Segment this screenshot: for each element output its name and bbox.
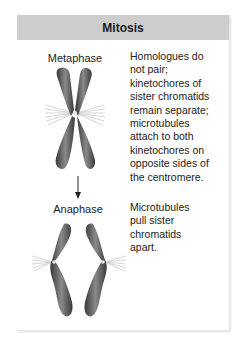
desc-line: kinetochores on bbox=[130, 144, 230, 157]
stage-label-metaphase: Metaphase bbox=[30, 52, 120, 64]
desc-line: not pair; bbox=[130, 63, 230, 76]
anaphase-chromatids-illustration bbox=[30, 220, 130, 320]
desc-line: sister chromatids bbox=[130, 90, 230, 103]
desc-line: pull sister bbox=[130, 214, 230, 227]
desc-line: attach to both bbox=[130, 130, 230, 143]
desc-line: apart. bbox=[130, 241, 230, 254]
desc-line: remain separate; bbox=[130, 104, 230, 117]
desc-line: Microtubules bbox=[130, 201, 230, 214]
desc-line: microtubules bbox=[130, 117, 230, 130]
desc-line: opposite sides of bbox=[130, 157, 230, 170]
down-arrow-icon bbox=[73, 176, 83, 200]
desc-line: Homologues do bbox=[130, 50, 230, 63]
description-metaphase: Homologues do not pair; kinetochores of … bbox=[130, 50, 230, 184]
desc-line: chromatids bbox=[130, 228, 230, 241]
stage-label-anaphase: Anaphase bbox=[33, 203, 123, 215]
metaphase-chromosome-illustration bbox=[30, 64, 120, 174]
desc-line: kinetochores of bbox=[130, 77, 230, 90]
desc-line: the centromere. bbox=[130, 171, 230, 184]
card-title: Mitosis bbox=[17, 15, 229, 40]
description-anaphase: Microtubules pull sister chromatids apar… bbox=[130, 201, 230, 255]
